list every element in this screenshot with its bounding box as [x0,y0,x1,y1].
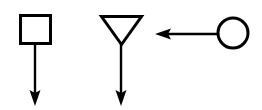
diagram-canvas [0,0,262,110]
square-shape-icon [21,16,51,44]
diagram-svg [0,0,262,110]
edge-square-down[interactable] [30,45,41,106]
circle-shape-icon [218,18,248,48]
edge-triangle-down[interactable] [116,43,127,106]
circle-node[interactable] [218,18,248,48]
edge-circle-left[interactable] [155,29,218,40]
triangle-down-shape-icon [102,17,142,45]
triangle-node[interactable] [102,17,142,45]
square-node[interactable] [21,16,51,44]
